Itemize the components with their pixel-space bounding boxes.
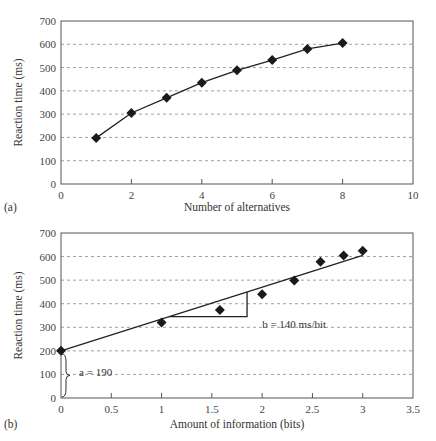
- y-axis-title: Reaction time (ms): [12, 271, 25, 359]
- x-tick-label: 3: [360, 403, 366, 415]
- y-tick-label: 700: [40, 227, 57, 239]
- data-point-diamond: [315, 257, 325, 267]
- y-tick-label: 300: [40, 321, 57, 333]
- annotation: b = 140 ms/bit: [262, 318, 326, 330]
- data-point-diamond: [215, 305, 225, 315]
- data-point-diamond: [232, 65, 242, 75]
- data-point-diamond: [358, 246, 368, 256]
- x-tick-label: 10: [408, 189, 420, 201]
- x-tick-label: 1: [159, 403, 165, 415]
- data-point-diamond: [91, 133, 101, 143]
- x-tick-label: 0: [58, 189, 64, 201]
- x-tick-label: 2: [259, 403, 265, 415]
- y-tick-label: 300: [40, 108, 57, 120]
- y-tick-label: 500: [40, 274, 57, 286]
- panel-label: (a): [4, 201, 17, 214]
- x-tick-label: 0: [58, 403, 64, 415]
- y-tick-label: 100: [40, 155, 57, 167]
- x-tick-label: 2.5: [306, 403, 320, 415]
- x-axis-title: Number of alternatives: [184, 201, 291, 213]
- y-tick-label: 0: [51, 392, 57, 404]
- data-point-diamond: [339, 250, 349, 260]
- y-axis-title: Reaction time (ms): [12, 58, 25, 146]
- x-axis-title: Amount of information (bits): [170, 418, 305, 431]
- data-point-diamond: [257, 289, 267, 299]
- x-tick-label: 6: [269, 189, 275, 201]
- annotation: a = 190: [79, 366, 113, 378]
- y-tick-label: 0: [51, 178, 57, 190]
- chart-canvas: 01002003004005006007000246810Number of a…: [0, 0, 436, 441]
- intercept-brace: [62, 354, 70, 397]
- y-tick-label: 500: [40, 62, 57, 74]
- data-point-diamond: [338, 38, 348, 48]
- x-tick-label: 3.5: [406, 403, 420, 415]
- regression-line: [61, 255, 363, 350]
- data-point-diamond: [157, 318, 167, 328]
- x-tick-label: 0.5: [104, 403, 118, 415]
- chart-panel-a: 01002003004005006007000246810Number of a…: [4, 15, 419, 214]
- y-tick-label: 700: [40, 15, 57, 27]
- data-point-diamond: [162, 93, 172, 103]
- y-tick-label: 200: [40, 345, 57, 357]
- panel-label: (b): [4, 418, 18, 431]
- plot-frame: [61, 21, 413, 184]
- x-tick-label: 8: [340, 189, 346, 201]
- chart-panel-b: 010020030040050060070000.511.522.533.5Am…: [4, 227, 420, 431]
- y-tick-label: 400: [40, 85, 57, 97]
- data-point-diamond: [126, 108, 136, 118]
- y-tick-label: 600: [40, 38, 57, 50]
- y-tick-label: 600: [40, 251, 57, 263]
- plot-frame: [61, 233, 413, 398]
- data-point-diamond: [197, 78, 207, 88]
- data-point-diamond: [302, 44, 312, 54]
- y-tick-label: 200: [40, 131, 57, 143]
- data-point-diamond: [289, 276, 299, 286]
- x-tick-label: 4: [199, 189, 205, 201]
- y-tick-label: 100: [40, 368, 57, 380]
- data-point-diamond: [267, 55, 277, 65]
- y-tick-label: 400: [40, 298, 57, 310]
- x-tick-label: 1.5: [205, 403, 219, 415]
- x-tick-label: 2: [129, 189, 135, 201]
